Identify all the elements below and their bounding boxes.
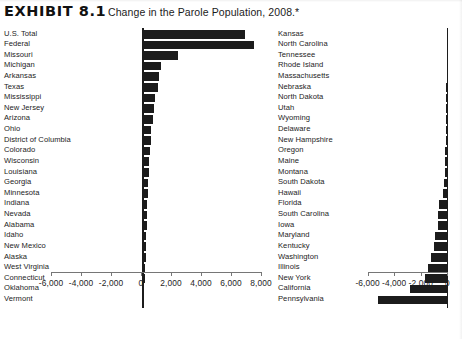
axis-tick-label: 4,000 — [190, 278, 211, 288]
axis-tick-label: 6,000 — [220, 278, 241, 288]
axis-tick-label: 0 — [139, 278, 144, 288]
axis-tick-label: 8,000 — [250, 278, 271, 288]
bar — [143, 83, 158, 92]
category-label: Arizona — [4, 114, 30, 122]
axis-tick-label: -6,000 — [39, 278, 63, 288]
axis-tick — [261, 272, 262, 276]
category-label: Federal — [4, 40, 30, 48]
bar — [143, 253, 146, 262]
category-label: Wisconsin — [4, 157, 39, 165]
bar — [446, 104, 447, 113]
axis-tick — [81, 272, 82, 276]
category-label: Oregon — [278, 146, 304, 154]
bar — [143, 147, 150, 156]
axis-tick — [51, 272, 52, 276]
category-label: Nevada — [4, 210, 30, 218]
bar — [446, 94, 447, 103]
category-label: Montana — [278, 168, 308, 176]
bar — [143, 179, 148, 188]
bar — [143, 41, 254, 50]
bar — [143, 200, 147, 209]
bar — [143, 264, 145, 273]
axis-tick — [231, 272, 232, 276]
category-label: Massachusetts — [278, 72, 329, 80]
category-label: Indiana — [4, 199, 29, 207]
category-label: Pennsylvania — [278, 295, 324, 303]
category-label: Michigan — [4, 61, 35, 69]
category-label: Texas — [4, 83, 24, 91]
panel-increases: U.S. TotalFederalMissouriMichiganArkansa… — [2, 28, 270, 336]
category-label: Utah — [278, 104, 294, 112]
category-label: Colorado — [4, 146, 35, 154]
axis-line-right — [368, 272, 448, 273]
bar — [143, 157, 149, 166]
bar — [143, 115, 153, 124]
bar — [143, 232, 146, 241]
axis-tick-label: 2,000 — [160, 278, 181, 288]
axis-tick — [368, 272, 369, 276]
plot-area-right — [357, 28, 454, 300]
category-label: Maryland — [278, 231, 310, 239]
category-label: Nebraska — [278, 83, 311, 91]
category-label: U.S. Total — [4, 30, 37, 38]
axis-tick — [171, 272, 172, 276]
category-label: New Jersey — [4, 104, 44, 112]
category-label: Iowa — [278, 221, 294, 229]
bar — [443, 189, 447, 198]
category-label: Oklahoma — [4, 284, 39, 292]
axis-tick — [141, 272, 142, 276]
bar — [438, 221, 448, 230]
category-label: Mississippi — [4, 93, 41, 101]
category-label: Rhode Island — [278, 61, 323, 69]
bar — [445, 157, 447, 166]
category-label: Georgia — [4, 178, 31, 186]
bar — [447, 72, 448, 81]
category-label: New Mexico — [4, 242, 46, 250]
bar — [143, 62, 161, 71]
bar — [439, 200, 448, 209]
bar — [143, 30, 245, 39]
category-label: West Virginia — [4, 263, 49, 271]
axis-tick — [394, 272, 395, 276]
bar — [446, 136, 448, 145]
bar — [143, 296, 144, 305]
bar — [447, 41, 448, 50]
bar — [446, 83, 447, 92]
bar — [444, 179, 447, 188]
category-label: Alabama — [4, 221, 34, 229]
category-label: Maine — [278, 157, 299, 165]
axis-tick — [201, 272, 202, 276]
panel-decreases: KansasNorth CarolinaTennesseeRhode Islan… — [276, 28, 460, 336]
category-label: Illinois — [278, 263, 300, 271]
bar — [447, 30, 448, 39]
category-label: Ohio — [4, 125, 20, 133]
bar — [445, 147, 447, 156]
category-label: Vermont — [4, 295, 33, 303]
bar — [143, 242, 146, 251]
bar — [378, 296, 447, 305]
category-label: Wyoming — [278, 114, 310, 122]
bar — [446, 115, 447, 124]
category-label: South Carolina — [278, 210, 329, 218]
bar — [435, 232, 447, 241]
chart-title: Change in the Parole Population, 2008.* — [108, 6, 299, 18]
category-label: Louisiana — [4, 168, 37, 176]
bar — [431, 253, 447, 262]
category-label: Tennessee — [278, 51, 315, 59]
category-label: North Dakota — [278, 93, 323, 101]
category-label: Kansas — [278, 30, 304, 38]
bar — [447, 51, 448, 60]
category-label: Idaho — [4, 231, 23, 239]
bar — [143, 189, 148, 198]
bar — [143, 72, 159, 81]
bar — [143, 168, 149, 177]
axis-tick-label: -4,000 — [69, 278, 93, 288]
plot-area-left — [53, 28, 263, 300]
axis-tick — [111, 272, 112, 276]
bar — [447, 62, 448, 71]
bar — [143, 136, 151, 145]
bar — [438, 211, 447, 220]
axis-line-left — [51, 272, 261, 273]
bar — [434, 242, 447, 251]
category-label: New York — [278, 274, 310, 282]
